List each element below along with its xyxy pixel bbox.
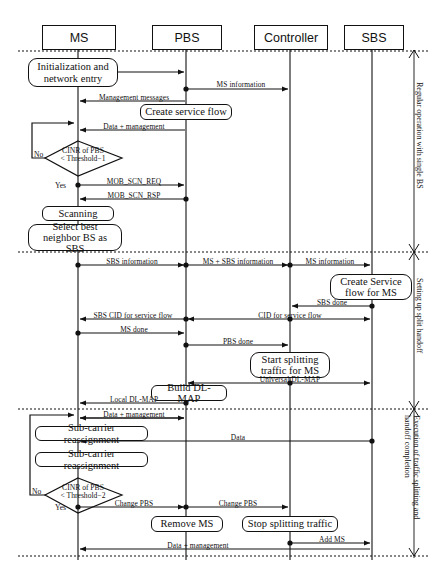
label-change-pbs-1: Change PBS	[86, 499, 182, 508]
activity-subcarrier-reassignment-2[interactable]: Sub-carrier reassignment	[35, 452, 148, 467]
decision-1-yes-label: Yes	[55, 181, 66, 190]
label-change-pbs-2: Change PBS	[190, 499, 286, 508]
label-management-messages: Management messages	[86, 93, 182, 102]
phase-label-execution: Execution of traffic splitting and hando…	[402, 415, 420, 519]
label-sbs-information: SBS information	[82, 257, 182, 266]
label-data-management-2: Data + management	[86, 410, 182, 419]
label-local-dl-map: Local DL-MAP	[86, 395, 182, 404]
decision-1-no-label: No	[34, 150, 43, 159]
phase-label-regular: Regular operation with single BS	[415, 82, 424, 189]
activity-create-service-flow[interactable]: Create service flow	[140, 104, 232, 120]
decision-2-yes-label: Yes	[55, 503, 66, 512]
activity-create-service-flow-label: Create service flow	[145, 106, 227, 117]
actor-sbs[interactable]: SBS	[344, 25, 404, 50]
activity-subcarrier-2-label: Sub-carrier reassignment	[40, 448, 143, 471]
label-ms-information-2: MS information	[292, 257, 368, 266]
label-pbs-done: PBS done	[190, 337, 286, 346]
activity-init-line-2: network entry	[44, 73, 103, 84]
phase-label-setup: Setting up split handoff	[415, 278, 424, 353]
actor-ms[interactable]: MS	[42, 25, 116, 50]
decision-threshold-1-text: CINR of PBS < Threshold−1	[44, 147, 122, 164]
actor-pbs[interactable]: PBS	[152, 25, 222, 50]
label-sbs-cid-service-flow: SBS CID for service flow	[80, 311, 186, 320]
label-cid-service-flow: CID for service flow	[240, 311, 340, 320]
activity-sst-line-1: Start splitting	[262, 354, 319, 365]
activity-subcarrier-reassignment-1[interactable]: Sub-carrier reassignment	[35, 426, 148, 441]
label-ms-sbs-information: MS + SBS information	[190, 257, 286, 266]
activity-select-line-1: Select best	[52, 221, 97, 232]
activity-stop-splitting-label: Stop splitting traffic	[248, 518, 332, 529]
activity-scanning-label: Scanning	[58, 208, 97, 219]
decision-1-line-2: < Threshold−1	[61, 154, 106, 163]
activity-subcarrier-1-label: Sub-carrier reassignment	[40, 422, 143, 445]
actor-controller[interactable]: Controller	[254, 25, 328, 50]
phase-execution-line-1: Execution of traffic splitting and	[412, 415, 421, 519]
activity-scanning[interactable]: Scanning	[42, 206, 114, 221]
activity-select-line-2: neighbor BS as SBS	[43, 232, 107, 254]
actor-controller-label: Controller	[264, 31, 318, 45]
activity-init-line-1: Initialization and	[37, 61, 108, 72]
decision-2-no-label: No	[32, 487, 41, 496]
activity-csfms-line-2: flow for MS	[345, 287, 397, 298]
activity-create-service-flow-for-ms[interactable]: Create Service flow for MS	[330, 274, 412, 300]
label-data-management-3: Data + management	[150, 541, 246, 550]
activity-initialization-network-entry[interactable]: Initialization and network entry	[28, 58, 118, 87]
activity-select-best-neighbor[interactable]: Select best neighbor BS as SBS	[28, 224, 122, 251]
actor-sbs-label: SBS	[361, 31, 386, 45]
activity-remove-ms-label: Remove MS	[161, 518, 214, 529]
activity-csfms-line-1: Create Service	[340, 276, 402, 287]
label-mob-scn-rsp: MOB_SCN_RSP	[86, 191, 182, 200]
label-ms-information-1: MS information	[196, 80, 286, 89]
label-sbs-done: SBS done	[294, 298, 370, 307]
label-ms-done: MS done	[86, 325, 182, 334]
label-data: Data	[190, 433, 286, 442]
phase-execution-line-2: handoff completion	[403, 415, 412, 478]
label-add-ms: Add MS	[294, 535, 370, 544]
label-mob-scn-req: MOB_SCN_REQ	[86, 177, 182, 186]
label-universal-dl-map: Universal DL-MAP	[238, 375, 342, 384]
actor-pbs-label: PBS	[174, 31, 199, 45]
activity-stop-splitting-traffic[interactable]: Stop splitting traffic	[242, 516, 338, 532]
actor-ms-label: MS	[70, 31, 89, 45]
activity-remove-ms[interactable]: Remove MS	[151, 516, 223, 532]
label-data-management-1: Data + management	[86, 122, 182, 131]
